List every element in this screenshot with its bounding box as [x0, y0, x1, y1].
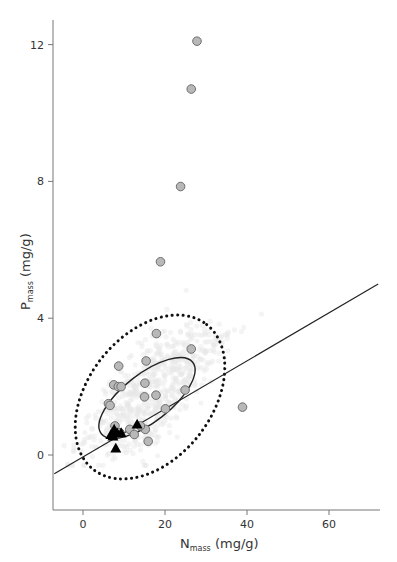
cloud-point [184, 404, 189, 409]
cloud-point [169, 416, 174, 421]
cloud-point [103, 392, 108, 397]
cloud-point [90, 427, 95, 432]
cloud-point [202, 347, 207, 352]
circle-point [181, 386, 190, 395]
y-tick-label: 0 [37, 449, 44, 462]
cloud-point [140, 344, 145, 349]
cloud-point [155, 439, 160, 444]
cloud-point [82, 440, 87, 445]
cloud-point [109, 415, 114, 420]
cloud-point [121, 413, 126, 418]
cloud-point [163, 393, 168, 398]
cloud-point [134, 406, 139, 411]
cloud-point [155, 384, 160, 389]
regression-line [54, 284, 378, 474]
cloud-point [202, 376, 207, 381]
cloud-point [182, 377, 187, 382]
cloud-point [141, 411, 146, 416]
cloud-point [175, 434, 180, 439]
cloud-point [121, 406, 126, 411]
x-tick-label: 40 [240, 518, 254, 531]
cloud-point [208, 319, 213, 324]
cloud-point [167, 423, 172, 428]
cloud-point [145, 403, 150, 408]
cloud-point [164, 307, 169, 312]
circle-point [140, 393, 149, 402]
circle-point [176, 182, 185, 191]
y-tick-label: 8 [37, 175, 44, 188]
cloud-point [171, 367, 176, 372]
cloud-point [122, 449, 127, 454]
cloud-point [143, 337, 148, 342]
cloud-point [148, 348, 153, 353]
cloud-point [217, 351, 222, 356]
cloud-point [162, 374, 167, 379]
cloud-point [184, 288, 189, 293]
cloud-point [100, 420, 105, 425]
cloud-point [92, 434, 97, 439]
cloud-point [166, 344, 171, 349]
circle-point [106, 401, 115, 410]
scatter-chart: 04812 0204060 Nmass (mg/g) Pmass (mg/g) [0, 0, 397, 562]
circle-point [142, 357, 151, 366]
cloud-point [126, 391, 131, 396]
cloud-point [239, 329, 244, 334]
cloud-point [165, 399, 170, 404]
circle-point [114, 362, 123, 371]
cloud-point [149, 379, 154, 384]
cloud-point [125, 402, 130, 407]
cloud-point [155, 453, 160, 458]
cloud-point [232, 327, 237, 332]
cloud-point [151, 368, 156, 373]
cloud-point [127, 448, 132, 453]
cloud-point [208, 348, 213, 353]
circle-point [152, 391, 161, 400]
cloud-point [98, 438, 103, 443]
cloud-point [197, 348, 202, 353]
cloud-point [176, 340, 181, 345]
cloud-point [128, 407, 133, 412]
cloud-point [162, 329, 167, 334]
cloud-point [201, 357, 206, 362]
circle-point [161, 405, 170, 414]
cloud-point [144, 463, 149, 468]
cloud-point [105, 453, 110, 458]
circle-point [141, 379, 150, 388]
cloud-point [179, 372, 184, 377]
cloud-point [199, 365, 204, 370]
cloud-point [174, 414, 179, 419]
cloud-point [153, 427, 158, 432]
cloud-point [129, 353, 134, 358]
x-tick-label: 20 [158, 518, 172, 531]
y-ticks: 04812 [30, 39, 53, 462]
circle-point [193, 37, 202, 46]
cloud-point [194, 323, 199, 328]
cloud-point [135, 442, 140, 447]
circle-point [156, 257, 165, 266]
x-tick-label: 0 [80, 518, 87, 531]
cloud-point [225, 348, 230, 353]
x-axis-title: Nmass (mg/g) [180, 536, 259, 553]
circle-point [117, 382, 126, 391]
cloud-point [62, 443, 67, 448]
y-tick-label: 12 [30, 39, 44, 52]
cloud-point [138, 447, 143, 452]
cloud-point [86, 413, 91, 418]
circle-point [238, 403, 247, 412]
cloud-point [202, 327, 207, 332]
cloud-point [216, 358, 221, 363]
cloud-point [208, 339, 213, 344]
cloud-point [185, 324, 190, 329]
cloud-point [90, 454, 95, 459]
cloud-point [81, 463, 86, 468]
cloud-point [185, 339, 190, 344]
cloud-point [178, 330, 183, 335]
cloud-point [155, 435, 160, 440]
cloud-point [158, 350, 163, 355]
cloud-point [84, 420, 89, 425]
cloud-point [199, 333, 204, 338]
cloud-point [128, 419, 133, 424]
cloud-point [116, 406, 121, 411]
cloud-point [82, 430, 87, 435]
cloud-point [191, 354, 196, 359]
